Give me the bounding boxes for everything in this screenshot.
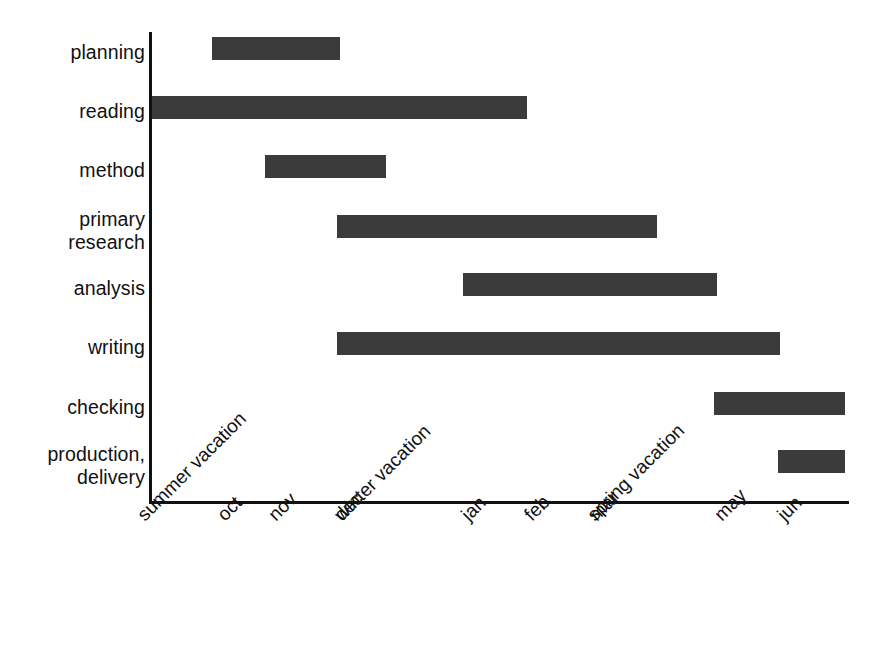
task-bar-reading[interactable] (152, 96, 527, 119)
task-bar-production-delivery[interactable] (778, 450, 845, 473)
x-tick-spring-vacation: spring vacation (583, 420, 688, 525)
task-label-text: writing (5, 336, 145, 359)
x-tick-oct: oct (213, 492, 246, 525)
x-tick-jun: jun (773, 492, 806, 525)
task-label-text: primary research (5, 208, 145, 254)
task-label-text: production, delivery (5, 443, 145, 489)
task-bar-method[interactable] (265, 155, 386, 178)
task-label-text: planning (5, 41, 145, 64)
task-label-text: method (5, 159, 145, 182)
task-bar-checking[interactable] (714, 392, 845, 415)
x-tick-may: may (710, 485, 750, 525)
task-label-text: reading (5, 100, 145, 123)
x-tick-feb: feb (520, 491, 554, 525)
task-label-text: analysis (5, 277, 145, 300)
x-tick-jan: jan (457, 492, 490, 525)
task-bar-analysis[interactable] (463, 273, 717, 296)
x-tick-winter-vacation: winter vacation (330, 420, 434, 524)
task-label-text: checking (5, 396, 145, 419)
task-bar-primary-research[interactable] (337, 215, 657, 238)
gantt-chart: planningreadingmethodprimary researchana… (0, 0, 884, 669)
task-bar-writing[interactable] (337, 332, 780, 355)
x-tick-nov: nov (264, 488, 301, 525)
task-bar-planning[interactable] (212, 37, 340, 60)
